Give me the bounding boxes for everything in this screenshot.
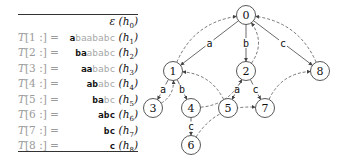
node-5: 5 (219, 99, 238, 118)
node-2: 2 (237, 62, 256, 81)
node-6: 6 (182, 136, 201, 155)
svg-text:7: 7 (262, 102, 269, 115)
node-8: 8 (311, 62, 330, 81)
suffix-link-7-8 (269, 71, 310, 99)
edge-label: c (188, 121, 194, 132)
edges-layer: abcabacc (158, 21, 313, 136)
svg-text:6: 6 (188, 139, 195, 152)
suffix-link-5-1 (182, 72, 223, 100)
edge-label: a (206, 38, 212, 49)
svg-text:1: 1 (170, 65, 177, 78)
svg-text:0: 0 (243, 9, 250, 22)
edge-label: c (280, 38, 286, 49)
svg-text:4: 4 (188, 102, 195, 115)
node-1: 1 (164, 62, 183, 81)
edge-label: b (243, 38, 249, 49)
nodes-layer: 012834576 (144, 6, 330, 155)
svg-text:8: 8 (317, 65, 324, 78)
node-0: 0 (237, 6, 256, 25)
svg-text:2: 2 (243, 65, 250, 78)
edge-label: b (179, 84, 185, 95)
edge-label: a (160, 84, 166, 95)
node-4: 4 (182, 99, 201, 118)
svg-text:3: 3 (150, 102, 157, 115)
trie-graph: abcabacc 012834576 (0, 0, 345, 164)
node-7: 7 (256, 99, 275, 118)
suffix-link-2-0 (251, 23, 258, 63)
svg-text:5: 5 (225, 102, 232, 115)
edge-label: a (234, 84, 240, 95)
edge-label: c (252, 84, 258, 95)
node-3: 3 (144, 99, 163, 118)
